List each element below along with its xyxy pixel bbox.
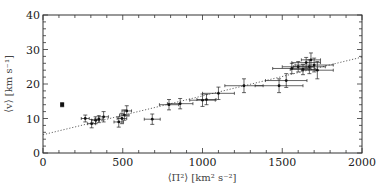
y-tick-label: 20 [26, 78, 40, 91]
data-point [167, 98, 193, 108]
data-point [81, 115, 89, 122]
y-tick-label: 0 [33, 147, 40, 160]
point-marker [217, 92, 220, 95]
data-point [60, 103, 64, 107]
data-point [144, 114, 160, 124]
point-marker [84, 117, 87, 120]
point-marker [151, 118, 154, 121]
data-point [159, 100, 178, 110]
plot-frame [43, 15, 362, 153]
point-marker [179, 102, 182, 105]
point-marker [313, 64, 316, 67]
point-marker [90, 122, 93, 125]
y-axis-label: ⟨v⟩ [km s⁻¹] [3, 55, 14, 113]
point-marker [205, 98, 208, 101]
point-marker [285, 79, 288, 82]
point-marker [117, 121, 120, 124]
x-tick-label: 1500 [268, 156, 296, 169]
point-marker [125, 110, 128, 113]
point-marker [243, 84, 246, 87]
data-point [292, 57, 321, 67]
x-tick-label: 2000 [348, 156, 376, 169]
x-axis-label: ⟨Π²⟩ [km² s⁻²] [168, 172, 237, 183]
data-point [190, 94, 216, 106]
y-tick-label: 30 [26, 44, 40, 57]
y-tick-label: 40 [26, 9, 40, 22]
data-point [197, 94, 216, 104]
data-point [99, 112, 109, 122]
y-tick-label: 10 [26, 113, 40, 126]
x-tick-label: 500 [112, 156, 133, 169]
x-tick-label: 1000 [189, 156, 217, 169]
point-marker [102, 115, 105, 118]
point-marker [310, 58, 313, 61]
x-tick-label: 0 [40, 156, 47, 169]
point-marker [278, 84, 281, 87]
point-marker [121, 117, 124, 120]
point-marker [316, 69, 319, 72]
tick-marks [43, 15, 362, 153]
data-point [290, 64, 316, 74]
scatter-chart: 0500100015002000010203040 ⟨Π²⟩ [km² s⁻²]… [0, 0, 384, 190]
square-marker [60, 103, 64, 107]
axes [43, 15, 362, 153]
data-points [60, 53, 333, 128]
point-marker [305, 61, 308, 64]
tick-labels: 0500100015002000010203040 [26, 9, 376, 169]
